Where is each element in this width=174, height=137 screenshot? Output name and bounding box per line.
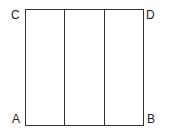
label-c: C — [11, 9, 20, 21]
diagram: C D A B — [0, 0, 174, 137]
label-b: B — [147, 113, 155, 125]
outer-square — [26, 10, 144, 126]
label-a: A — [12, 113, 20, 125]
label-d: D — [146, 9, 155, 21]
